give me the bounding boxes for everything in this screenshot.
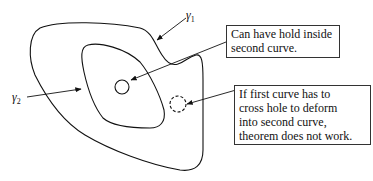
hole-inside-icon bbox=[115, 80, 129, 94]
arrow-gamma-2 bbox=[27, 89, 81, 97]
label-gamma-2: γ2 bbox=[12, 90, 21, 106]
callout-hole-inside: Can have hold inside second curve. bbox=[226, 25, 340, 58]
arrow-gamma-1 bbox=[157, 18, 186, 40]
label-gamma-1: γ1 bbox=[186, 8, 195, 24]
arrow-callout-hole-crossing bbox=[187, 90, 236, 104]
callout-hole-crossing: If first curve has to cross hole to defo… bbox=[234, 85, 371, 145]
label-gamma-1-subscript: 1 bbox=[191, 15, 195, 24]
label-gamma-2-subscript: 2 bbox=[17, 97, 21, 106]
arrow-callout-hole-inside bbox=[131, 42, 226, 80]
curve-gamma-2 bbox=[82, 44, 165, 128]
hole-outside-dashed-icon bbox=[170, 96, 186, 112]
